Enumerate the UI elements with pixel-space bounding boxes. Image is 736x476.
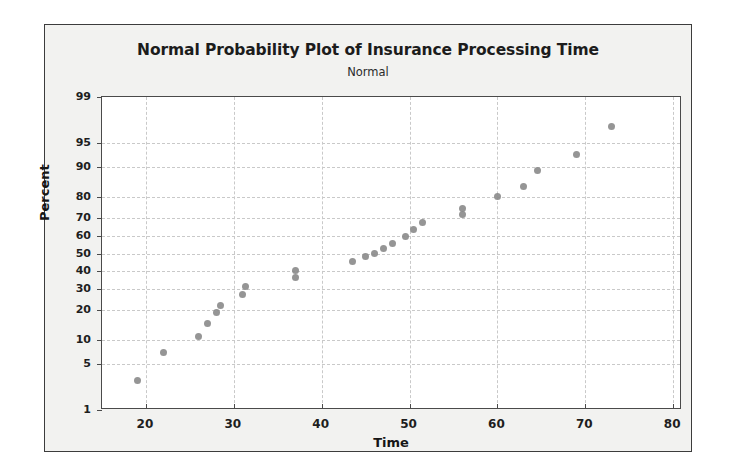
y-tick-label: 50 [59,246,91,259]
data-point [380,245,387,252]
chart-title: Normal Probability Plot of Insurance Pro… [45,41,691,59]
y-tick-label: 40 [59,263,91,276]
gridline-horizontal [102,167,680,168]
data-point [292,267,299,274]
y-tick-label: 95 [59,135,91,148]
screenshot-root: Normal Probability Plot of Insurance Pro… [0,0,736,476]
y-tick [97,410,102,411]
x-tick-label: 40 [312,417,329,431]
data-point [213,309,220,316]
y-tick-label: 80 [59,189,91,202]
x-tick-label: 60 [488,417,505,431]
y-tick-label: 1 [59,403,91,416]
gridline-horizontal [102,254,680,255]
data-point [419,219,426,226]
y-tick-label: 60 [59,229,91,242]
y-tick [97,218,102,219]
x-tick [585,404,586,409]
x-tick [234,404,235,409]
data-point [362,253,369,260]
x-tick-label: 30 [224,417,241,431]
data-point [239,291,246,298]
data-point [217,302,224,309]
data-point [520,183,527,190]
gridline-horizontal [102,340,680,341]
y-tick [97,97,102,98]
gridline-horizontal [102,197,680,198]
data-point [573,151,580,158]
x-tick [673,404,674,409]
data-point [389,240,396,247]
gridline-horizontal [102,236,680,237]
x-tick-label: 20 [137,417,154,431]
y-tick-label: 99 [59,90,91,103]
y-tick-label: 90 [59,160,91,173]
data-point [608,123,615,130]
y-tick [97,254,102,255]
chart-subtitle: Normal [45,65,691,79]
x-tick-label: 50 [400,417,417,431]
gridline-horizontal [102,364,680,365]
data-point [292,274,299,281]
y-tick-label: 5 [59,357,91,370]
chart-figure-panel: Normal Probability Plot of Insurance Pro… [44,24,692,452]
x-tick [410,404,411,409]
data-point [410,226,417,233]
data-point [459,211,466,218]
data-point [134,377,141,384]
data-point [402,233,409,240]
data-point [349,258,356,265]
x-tick-label: 80 [664,417,681,431]
data-point [195,333,202,340]
y-tick [97,289,102,290]
gridline-horizontal [102,271,680,272]
y-tick [97,364,102,365]
data-point [494,193,501,200]
y-tick [97,197,102,198]
gridline-horizontal [102,289,680,290]
y-tick [97,340,102,341]
y-tick-label: 20 [59,303,91,316]
y-tick [97,310,102,311]
data-point [534,167,541,174]
x-tick [322,404,323,409]
y-tick [97,143,102,144]
data-point [204,320,211,327]
plot-area [101,96,681,409]
y-axis-label: Percent [37,164,52,221]
data-point [371,250,378,257]
data-point [160,349,167,356]
y-tick-label: 30 [59,281,91,294]
y-tick [97,271,102,272]
x-tick [497,404,498,409]
y-tick-label: 10 [59,332,91,345]
x-tick-label: 70 [576,417,593,431]
gridline-horizontal [102,218,680,219]
gridline-horizontal [102,310,680,311]
y-tick [97,167,102,168]
x-tick [146,404,147,409]
gridline-horizontal [102,143,680,144]
y-tick-label: 70 [59,211,91,224]
x-axis-label: Time [101,435,681,450]
data-point [459,205,466,212]
y-tick [97,236,102,237]
